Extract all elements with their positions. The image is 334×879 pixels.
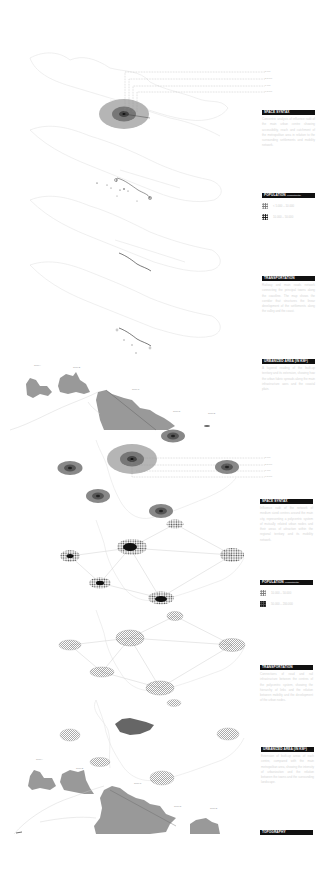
legend-title: TRANSPORTATION [260,665,313,670]
top-transport-layer [119,253,151,346]
place-label: Town B [73,366,80,368]
legend-transportation-top: TRANSPORTATION Railway and main roads ne… [262,276,315,315]
bottom-concentric-rings [58,430,240,519]
legend-title: POPULATION(inhabitants) [262,193,315,198]
dot-pattern-light-icon [262,203,268,209]
legend-text: Concentric analysis of influence radii o… [262,117,315,149]
legend-text: A layered reading of the built-up territ… [262,366,315,392]
legend-text: Extension of built-up areas of each cent… [261,754,314,786]
dot-pattern-dark-icon [260,601,266,607]
legend-swatch-row: 50.000 – 200.000 [260,600,313,607]
bottom-population-network [60,520,244,605]
swatch-label: 50.000 – 200.000 [271,602,293,606]
distance-label: 0,5 KM [265,90,272,92]
legend-text: Influence radii of the network of medium… [260,506,313,543]
top-population-layer [96,178,151,202]
legend-space-syntax-bottom: SPACE SYNTAX Influence radii of the netw… [260,499,313,543]
legend-title: SPACE SYNTAX [260,499,313,504]
diagram-canvas: 5 KM 2,5 KM 1 KM 0,5 KM 5 KM 2,5 KM 1 KM… [0,0,334,879]
place-label: Town D [173,410,180,412]
swatch-label: 10.000 – 50.000 [271,591,291,595]
legend-space-syntax-top: SPACE SYNTAX Concentric analysis of infl… [262,110,315,149]
legend-title: TOPOGRAPHY [260,830,313,835]
distance-label: 1 KM [265,84,270,86]
swatch-label: < 5.000 – 10.000 [273,204,294,208]
place-label: Town C [132,388,139,390]
legend-population-top: POPULATION(inhabitants) < 5.000 – 10.000… [262,193,315,220]
distance-label: 2,5 KM [265,77,272,79]
place-label: Town A [36,758,43,760]
place-label: Town E [210,807,217,809]
legend-swatch-row: < 5.000 – 10.000 [262,202,315,209]
place-label: Town D [174,805,181,807]
legend-transportation-bottom: TRANSPORTATION Connections of road and r… [260,665,313,704]
legend-swatch-row: 10.000 – 50.000 [262,213,315,220]
distance-label: 0,5 KM [265,475,272,477]
bottom-topography-map [14,770,220,834]
distance-label: 1 KM [265,469,270,471]
bottom-urbanized-layer [60,700,239,786]
legend-title: POPULATION(inhabitants) [260,580,313,585]
legend-text: Railway and main roads network connectin… [262,283,315,315]
top-transport-dots [116,329,152,354]
dot-pattern-light-icon [260,590,266,596]
place-label: Town C [134,782,141,784]
legend-urbanized-top: URBANIZED AREA (IN KM²) A layered readin… [262,359,315,392]
legend-title: TRANSPORTATION [262,276,315,281]
legend-swatch-row: 10.000 – 50.000 [260,589,313,596]
legend-title: URBANIZED AREA (IN KM²) [262,359,315,364]
top-urbanized-map [10,372,210,430]
bottom-transport-network [59,612,245,696]
place-label: Town A [34,364,41,366]
distance-label: 5 KM [265,456,270,458]
legend-urbanized-bottom: URBANIZED AREA (IN KM²) Extension of bui… [261,747,314,786]
top-concentric-rings [99,99,150,129]
legend-title: URBANIZED AREA (IN KM²) [261,747,314,752]
legend-text: Connections of road and rail infrastruct… [260,672,313,704]
legend-population-bottom: POPULATION(inhabitants) 10.000 – 50.000 … [260,580,313,607]
legend-title: SPACE SYNTAX [262,110,315,115]
legend-topography-bottom: TOPOGRAPHY [260,830,313,835]
place-label: Town B [76,767,83,769]
swatch-label: 10.000 – 50.000 [273,215,293,219]
place-label: Town E [208,412,215,414]
distance-label: 2,5 KM [265,463,272,465]
dot-pattern-dense-icon [262,214,268,220]
distance-label: 5 KM [265,70,270,72]
